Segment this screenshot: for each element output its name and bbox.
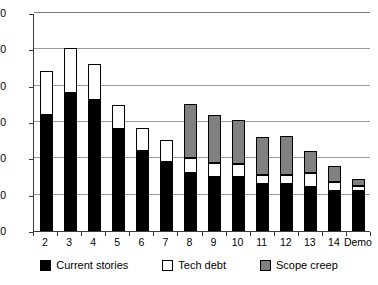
bar-segment-14-scope-creep[interactable]	[328, 166, 341, 182]
bar-group-2[interactable]	[40, 13, 53, 231]
x-tick-mark-12	[322, 232, 323, 236]
stacked-bar-chart: 050100150200250300 234567891011121314Dem…	[0, 0, 378, 285]
x-tick-mark-8	[226, 232, 227, 236]
x-tick-mark-11	[298, 232, 299, 236]
x-tick-mark-2	[81, 232, 82, 236]
bar-segment-6-current-stories[interactable]	[136, 151, 149, 231]
bar-segment-13-current-stories[interactable]	[304, 187, 317, 231]
bar-segment-3-current-stories[interactable]	[64, 93, 77, 231]
plot-area	[33, 14, 370, 232]
bar-segment-3-tech-debt[interactable]	[64, 48, 77, 93]
bar-group-10[interactable]	[232, 13, 245, 231]
bar-segment-7-current-stories[interactable]	[160, 162, 173, 231]
y-tick-label-300: 300	[0, 8, 6, 19]
bar-segment-demo-tech-debt[interactable]	[352, 186, 365, 191]
bar-segment-10-current-stories[interactable]	[232, 177, 245, 232]
y-tick-label-150: 150	[0, 117, 6, 128]
chart-legend: Current storiesTech debtScope creep	[0, 259, 378, 271]
bar-segment-11-scope-creep[interactable]	[256, 137, 269, 175]
bar-group-3[interactable]	[64, 13, 77, 231]
legend-entry-scope-creep[interactable]: Scope creep	[260, 259, 338, 271]
legend-label-current-stories: Current stories	[56, 259, 128, 271]
legend-swatch-current-stories	[40, 260, 51, 271]
x-tick-mark-9	[250, 232, 251, 236]
bar-segment-2-tech-debt[interactable]	[40, 71, 53, 115]
bar-segment-12-current-stories[interactable]	[280, 184, 293, 231]
bar-group-4[interactable]	[88, 13, 101, 231]
y-tick-label-50: 50	[0, 190, 6, 201]
legend-label-tech-debt: Tech debt	[178, 259, 226, 271]
bar-segment-5-current-stories[interactable]	[112, 129, 125, 231]
bar-segment-9-scope-creep[interactable]	[208, 115, 221, 164]
gridline-300	[34, 12, 370, 13]
x-tick-mark-6	[177, 232, 178, 236]
y-tick-label-0: 0	[0, 226, 6, 237]
bar-segment-14-current-stories[interactable]	[328, 191, 341, 231]
bar-group-demo[interactable]	[352, 13, 365, 231]
bar-segment-4-tech-debt[interactable]	[88, 64, 101, 100]
bar-group-11[interactable]	[256, 13, 269, 231]
bar-segment-14-tech-debt[interactable]	[328, 182, 341, 191]
legend-entry-tech-debt[interactable]: Tech debt	[162, 259, 226, 271]
bar-segment-4-current-stories[interactable]	[88, 100, 101, 231]
x-tick-mark-end	[370, 232, 371, 236]
bar-segment-9-tech-debt[interactable]	[208, 163, 221, 176]
legend-swatch-tech-debt	[162, 260, 173, 271]
bar-segment-demo-current-stories[interactable]	[352, 191, 365, 231]
bar-segment-8-tech-debt[interactable]	[184, 158, 197, 173]
bar-segment-8-scope-creep[interactable]	[184, 104, 197, 159]
legend-swatch-scope-creep	[260, 260, 271, 271]
bar-group-9[interactable]	[208, 13, 221, 231]
bar-segment-12-scope-creep[interactable]	[280, 136, 293, 175]
x-tick-mark-10	[274, 232, 275, 236]
legend-entry-current-stories[interactable]: Current stories	[40, 259, 128, 271]
bars-layer	[34, 14, 370, 231]
bar-segment-2-current-stories[interactable]	[40, 115, 53, 231]
bar-segment-12-tech-debt[interactable]	[280, 175, 293, 184]
bar-segment-9-current-stories[interactable]	[208, 177, 221, 232]
x-tick-label-demo: Demo	[338, 237, 378, 249]
x-tick-mark-0	[33, 232, 34, 236]
bar-segment-13-tech-debt[interactable]	[304, 173, 317, 188]
y-tick-label-250: 250	[0, 44, 6, 55]
bar-segment-7-tech-debt[interactable]	[160, 140, 173, 162]
bar-group-12[interactable]	[280, 13, 293, 231]
x-tick-mark-3	[105, 232, 106, 236]
y-tick-label-100: 100	[0, 153, 6, 164]
x-tick-mark-5	[153, 232, 154, 236]
bar-segment-5-tech-debt[interactable]	[112, 105, 125, 129]
bar-segment-11-tech-debt[interactable]	[256, 175, 269, 184]
bar-segment-10-tech-debt[interactable]	[232, 164, 245, 176]
x-tick-mark-7	[202, 232, 203, 236]
bar-segment-6-tech-debt[interactable]	[136, 128, 149, 151]
bar-segment-13-scope-creep[interactable]	[304, 151, 317, 173]
legend-label-scope-creep: Scope creep	[276, 259, 338, 271]
x-tick-mark-4	[129, 232, 130, 236]
bar-group-7[interactable]	[160, 13, 173, 231]
bar-segment-8-current-stories[interactable]	[184, 173, 197, 231]
bar-group-8[interactable]	[184, 13, 197, 231]
bar-segment-demo-scope-creep[interactable]	[352, 179, 365, 186]
bar-group-6[interactable]	[136, 13, 149, 231]
bar-segment-11-current-stories[interactable]	[256, 184, 269, 231]
bar-group-13[interactable]	[304, 13, 317, 231]
bar-segment-10-scope-creep[interactable]	[232, 120, 245, 164]
y-tick-label-200: 200	[0, 81, 6, 92]
x-tick-mark-1	[57, 232, 58, 236]
bar-group-14[interactable]	[328, 13, 341, 231]
bar-group-5[interactable]	[112, 13, 125, 231]
